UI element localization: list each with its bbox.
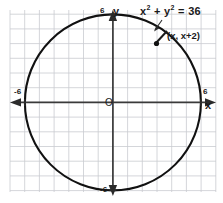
equation-tail: = 36 [178,5,201,17]
circle-equation-annotation: x2 + y2 = 36 [140,6,201,17]
equation-exponent-2: 2 [170,4,174,11]
x-axis-label: x [205,100,211,111]
origin-label: O [105,98,113,108]
x-axis-tick-negative-6: -6 [14,88,21,96]
y-axis-tick-6: 6 [100,7,104,15]
point-coordinate-annotation: (x, x+2) [167,31,200,41]
x-axis-left-arrow [10,98,21,106]
equation-mid: + y [154,5,171,17]
coordinate-plane-figure: 6 -6 -6 6 y x O x2 + y2 = 36 (x, x+2) [0,0,223,203]
y-axis-tick-negative-6: -6 [100,186,107,194]
point-marker [154,41,159,46]
equation-exponent-1: 2 [146,4,150,11]
y-axis-label: y [113,6,119,17]
x-axis-tick-6: 6 [203,88,207,96]
